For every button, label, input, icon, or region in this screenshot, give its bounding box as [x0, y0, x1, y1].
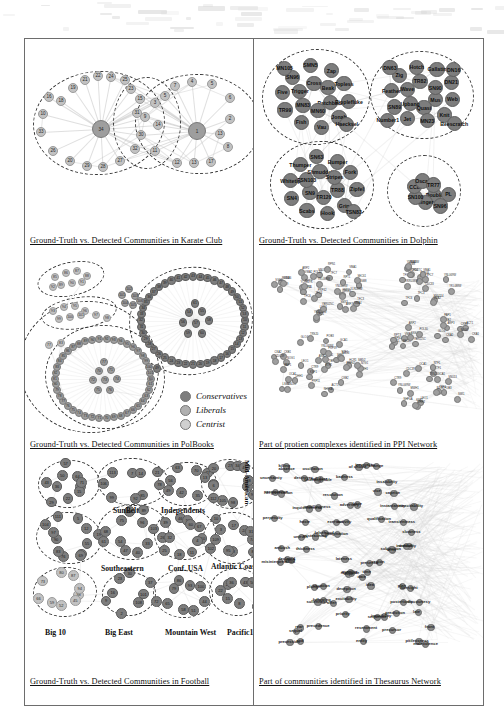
dolphin-node-label: TR88 [331, 187, 344, 193]
dolphin-node-label: Hook [321, 210, 334, 216]
graph-node: 50 [57, 470, 68, 481]
graph-node: 2 [116, 608, 127, 619]
ppi-node-label: CKB2 [332, 376, 358, 381]
dolphin-node-label: Zig [395, 72, 403, 78]
graph-node: TSN83 [346, 204, 361, 219]
dolphin-node-label: Zap [327, 68, 336, 74]
graph-node: 102 [125, 285, 133, 293]
graph-node: 53 [240, 310, 248, 318]
graph-node: Stripes [327, 170, 342, 185]
community-outline [366, 47, 477, 144]
ppi-node-label: SEC61 [349, 274, 375, 279]
ppi-node-label: YBR025C [407, 337, 433, 342]
dolphin-node-label: PL [445, 191, 452, 197]
graph-node: 97 [92, 311, 100, 319]
dolphin-node-label: DN16 [447, 67, 460, 73]
thesaurus-word-label: transientness [389, 519, 416, 524]
graph-node: 90 [68, 279, 76, 287]
graph-node: 70 [95, 367, 103, 375]
graph-node: 92 [49, 283, 57, 291]
ppi-node-label: VMA1 [340, 265, 366, 270]
ppi-node-label: LSM4 [273, 382, 299, 387]
graph-node: 77 [45, 341, 53, 349]
graph-node: 108 [133, 597, 144, 608]
polbooks-graph: 1011121314151617181920212223242526272829… [25, 249, 253, 439]
dolphin-node-label: SN89 [388, 104, 401, 110]
ppi-node-label: NOG1 [452, 328, 478, 333]
thesaurus-word-label: resentment [355, 625, 377, 630]
dolphin-node-label: TR120 [316, 194, 332, 200]
graph-node: 21 [189, 360, 197, 368]
graph-node: 51 [188, 605, 199, 616]
thesaurus-word-label: instantaneity [380, 503, 405, 508]
thesaurus-word-label: exertion [327, 519, 343, 524]
graph-node: 44 [199, 596, 210, 607]
ppi-node-label: OCA1 [410, 362, 436, 367]
graph-node: 61 [191, 299, 199, 307]
thesaurus-word-label: ambush [274, 545, 290, 550]
graph-node: 77 [100, 358, 108, 366]
graph-node: 96 [137, 517, 148, 528]
graph-node: Cross [306, 76, 321, 91]
graph-node: Fork [343, 165, 358, 180]
graph-node: 87 [73, 267, 81, 275]
thesaurus-word-label: killing [279, 463, 291, 468]
graph-node: 89 [57, 281, 65, 289]
dolphin-node-label: Trigger [291, 88, 309, 94]
graph-node: 83 [53, 546, 64, 557]
graph-node: 93 [49, 307, 57, 315]
thesaurus-word-label: slowness [402, 529, 420, 534]
community-label: Atlantic Coast [211, 562, 253, 571]
dolphin-node-label: TSN83 [346, 209, 362, 215]
thesaurus-word-label: evil doer [310, 476, 327, 481]
dolphin-node-label: Knit [439, 112, 449, 118]
graph-node: 59 [184, 329, 192, 337]
ppi-node-label: VMA2 [424, 296, 450, 301]
graph-node: 76 [106, 386, 114, 394]
dolphin-node-label: Zipfel [350, 186, 364, 192]
graph-node: 91 [78, 278, 86, 286]
graph-node: 42 [176, 487, 187, 498]
graph-node: 12 [81, 523, 92, 534]
dolphin-node-label: Mus [430, 97, 440, 103]
graph-node: 36 [226, 577, 237, 588]
thesaurus-word-label: time [363, 569, 371, 574]
graph-node: Five [275, 85, 290, 100]
graph-node: 99 [106, 492, 117, 503]
thesaurus-word-label: discourtesy [407, 599, 430, 604]
thesaurus-word-label: badness [336, 474, 353, 479]
dolphin-node-label: MN83 [296, 102, 310, 108]
graph-node: 5 [73, 513, 84, 524]
legend-label-liberals: Liberals [196, 405, 226, 415]
dolphin-node-label: SN4 [287, 195, 297, 201]
thesaurus-word-label: rear [295, 624, 303, 629]
graph-node: 3 [215, 524, 226, 535]
thesaurus-word-label: vice [373, 488, 381, 493]
karate-graph: 1234567891011121314151617181920212223242… [25, 39, 253, 235]
thesaurus-word-label: resolution [323, 492, 343, 497]
thesaurus-graph: oscillationchangeinequalityabsenceof cho… [254, 452, 483, 676]
panel-ppi: PRP42PRP39PRP11SMD2SMX3LSM4LSM8YCR84TCPR… [254, 249, 483, 453]
dolphin-node-label: SN96 [434, 203, 447, 209]
dolphin-node-label: DN21 [445, 79, 458, 85]
graph-node: MN83 [295, 98, 310, 113]
dolphin-node-label: Web [447, 96, 458, 102]
ppi-node-label: PRP11 [303, 379, 329, 384]
legend-swatch-centrist [180, 419, 191, 430]
thesaurus-word-label: place [285, 557, 295, 562]
graph-node: 55 [198, 307, 206, 315]
community-label: Big East [105, 628, 133, 637]
graph-node: 40 [132, 547, 143, 558]
graph-node: 71 [107, 366, 115, 374]
graph-node: 104 [40, 519, 51, 530]
community-label: SunBelt [113, 506, 139, 515]
thesaurus-word-label: thickness [296, 546, 315, 551]
ppi-graph: PRP42PRP39PRP11SMD2SMX3LSM4LSM8YCR84TCPR… [254, 249, 483, 439]
dolphin-node-label: SN63 [310, 154, 323, 160]
dolphin-node-label: Beescratch [440, 121, 468, 127]
graph-node: 31 [245, 526, 253, 537]
graph-node: 106 [136, 297, 144, 305]
graph-node: 32 [164, 532, 175, 543]
graph-node: 111 [53, 511, 64, 522]
graph-node: 25 [159, 545, 170, 556]
